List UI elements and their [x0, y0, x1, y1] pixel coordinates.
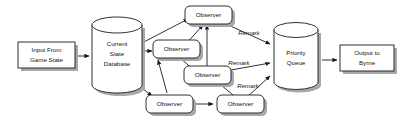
edge-observer-bottom-left-to-observer-center	[158, 60, 167, 93]
input-label-line2: Game State	[30, 56, 64, 63]
node-observer-center[interactable]: Observer	[153, 40, 203, 61]
observer-right-label: Observer	[195, 71, 220, 78]
observer-bottom-left-label: Observer	[157, 100, 182, 107]
queue-label-line1: Priority	[286, 49, 306, 56]
database-label-line2: State	[110, 50, 125, 57]
database-label-line1: Current	[107, 40, 128, 47]
database-top-ellipse	[92, 17, 142, 33]
node-observer-bottom-right[interactable]: Observer	[217, 95, 267, 116]
node-priority-queue[interactable]: Priority Queue	[274, 23, 321, 93]
output-label-line2: Byrne	[359, 59, 376, 66]
node-observer-right[interactable]: Observer	[184, 66, 234, 87]
edge-label-remark-middle: Remark	[228, 59, 250, 66]
node-input-from-game-state[interactable]: Input From Game State	[18, 42, 78, 71]
diagram-svg: Input From Game State Current State Data…	[0, 0, 411, 128]
database-label-line3: Database	[104, 60, 131, 67]
node-observer-bottom-left[interactable]: Observer	[146, 95, 196, 116]
edge-label-remark-bottom: Remark	[237, 82, 259, 89]
node-current-state-database[interactable]: Current State Database	[92, 17, 145, 96]
diagram-canvas: Input From Game State Current State Data…	[0, 0, 411, 128]
queue-top-ellipse	[274, 23, 318, 38]
observer-center-label: Observer	[164, 45, 189, 52]
observer-top-label: Observer	[196, 11, 221, 18]
node-observer-top[interactable]: Observer	[185, 6, 235, 27]
queue-label-line2: Queue	[287, 59, 306, 66]
observer-bottom-right-label: Observer	[228, 100, 253, 107]
edge-label-remark-top: Remark	[238, 29, 260, 36]
output-label-line1: Output to	[354, 49, 380, 56]
input-label-line1: Input From	[32, 46, 62, 53]
node-output-to-byrne[interactable]: Output to Byrne	[340, 45, 397, 74]
